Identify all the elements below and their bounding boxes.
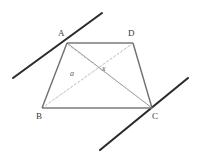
vertex-label-D: D bbox=[128, 29, 135, 38]
angle-label-a: a bbox=[70, 70, 74, 78]
vertex-label-B: B bbox=[36, 112, 42, 121]
angle-label-x: x bbox=[102, 65, 106, 73]
geometry-canvas bbox=[0, 0, 197, 160]
vertex-label-A: A bbox=[58, 29, 65, 38]
vertex-label-C: C bbox=[152, 112, 158, 121]
geometry-figure: A D B C a x bbox=[0, 0, 197, 160]
transversal-through-C-line bbox=[100, 78, 188, 150]
side-DC-line bbox=[133, 43, 152, 108]
side-AB-line bbox=[42, 43, 67, 108]
